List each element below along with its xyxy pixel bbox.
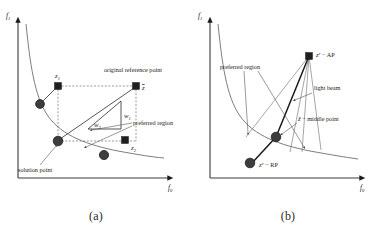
label-solution-point: solution point — [18, 166, 52, 173]
leader-light-beam — [295, 93, 312, 100]
beam-ray-mid-left — [290, 56, 309, 152]
caption-b: (b) — [192, 209, 384, 224]
x-axis-label: f0 — [168, 183, 173, 193]
weight-hypotenuse — [88, 101, 121, 129]
label-z1: z1 — [54, 72, 60, 81]
panel-b-canvas: f1 f0 zr − AP ẑ − middle point zv − RP … — [192, 0, 384, 226]
reference-direction-ray — [60, 88, 134, 139]
y-axis-label: f1 — [6, 11, 10, 21]
marker-zbar — [132, 82, 139, 89]
label-middle-point: ẑ − middle point — [297, 115, 339, 122]
panel-a-canvas: f1 f0 z1 z — [0, 0, 192, 226]
marker-middle-point — [271, 132, 281, 142]
label-light-beam: light beam — [314, 84, 340, 91]
marker-reservation-point — [245, 158, 255, 168]
y-axis-label: f1 — [198, 11, 202, 21]
panel-b: f1 f0 zr − AP ẑ − middle point zv − RP … — [192, 0, 384, 226]
leader-solution-point — [40, 146, 56, 165]
label-preferred-region: preferred region — [133, 119, 173, 126]
label-reservation-point: zv − RP — [258, 161, 278, 168]
label-zbar: z — [141, 84, 145, 91]
caption-a: (a) — [0, 209, 192, 224]
marker-front-point-lower — [99, 150, 108, 159]
panel-a: f1 f0 z1 z — [0, 0, 192, 226]
figure-root: f1 f0 z1 z — [0, 0, 384, 226]
label-weight-1: w1 — [124, 112, 131, 121]
marker-z2 — [121, 136, 128, 143]
marker-aspiration-point — [305, 52, 312, 59]
beam-ray-right — [309, 56, 321, 150]
beam-to-reservation-point — [252, 137, 276, 163]
marker-solution-point — [53, 136, 63, 146]
label-preferred-region: preferred region — [220, 63, 260, 70]
marker-z1 — [54, 82, 61, 89]
x-axis-label: f0 — [360, 183, 365, 193]
label-z2: z2 — [130, 144, 137, 153]
pareto-front-curve — [218, 24, 358, 159]
label-aspiration-point: zr − AP — [315, 51, 335, 58]
pareto-front-curve — [26, 24, 164, 158]
connector-front-to-z1 — [43, 89, 55, 101]
axis-group — [210, 22, 360, 178]
label-original-reference-point: original reference point — [104, 66, 162, 73]
